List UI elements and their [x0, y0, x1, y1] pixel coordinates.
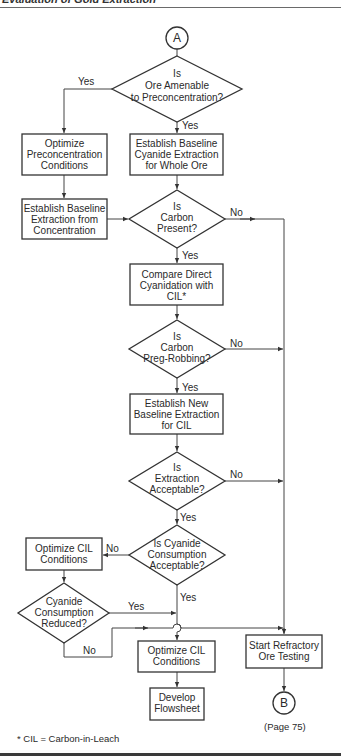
process-optimize-cil-left: Optimize CIL Conditions — [26, 538, 102, 570]
svg-text:Develop: Develop — [159, 692, 196, 703]
svg-text:Compare Direct: Compare Direct — [141, 269, 211, 280]
decision-cyanide-reduced: Cyanide Consumption Reduced? — [18, 583, 109, 643]
decision-carbon-present: Is Carbon Present? — [129, 190, 225, 248]
svg-text:Conditions: Conditions — [41, 160, 88, 171]
svg-text:Preg-Robbing?: Preg-Robbing? — [143, 353, 211, 364]
svg-text:Extraction: Extraction — [155, 473, 199, 484]
svg-text:Conditions: Conditions — [153, 656, 200, 667]
svg-text:Is: Is — [173, 201, 181, 212]
svg-text:Is: Is — [173, 68, 181, 79]
decision-extraction-acceptable: Is Extraction Acceptable? — [129, 452, 225, 510]
label-cyacc-yes: Yes — [180, 592, 196, 603]
svg-text:Acceptable?: Acceptable? — [149, 484, 204, 495]
svg-text:Conditions: Conditions — [40, 554, 87, 565]
edge-d1-yes-left — [64, 89, 112, 133]
svg-text:Concentration: Concentration — [33, 225, 95, 236]
svg-text:A: A — [173, 31, 181, 45]
svg-text:Carbon: Carbon — [161, 342, 194, 353]
label-extraction-yes: Yes — [180, 512, 196, 523]
svg-text:Flowsheet: Flowsheet — [154, 703, 200, 714]
svg-text:Optimize CIL: Optimize CIL — [148, 645, 206, 656]
label-pregrob-no: No — [230, 338, 243, 349]
flowchart: A Is Ore Amenable to Preconcentration? O… — [0, 0, 341, 756]
label-d1-yes-left: Yes — [78, 76, 94, 87]
svg-text:for CIL: for CIL — [161, 420, 191, 431]
process-develop-flowsheet: Develop Flowsheet — [150, 688, 204, 720]
process-optimize-preconcentration: Optimize Preconcentration Conditions — [22, 134, 107, 175]
svg-text:Is Cyanide: Is Cyanide — [153, 538, 201, 549]
label-carbon-no: No — [230, 207, 243, 218]
process-optimize-cil-center: Optimize CIL Conditions — [138, 641, 215, 672]
svg-text:Start Refractory: Start Refractory — [249, 640, 319, 651]
svg-text:for Whole Ore: for Whole Ore — [145, 160, 208, 171]
process-compare-cyanidation: Compare Direct Cyanidation with CIL* — [130, 264, 223, 305]
svg-text:Extraction from: Extraction from — [31, 214, 98, 225]
connector-a: A — [166, 27, 188, 49]
decision-preg-robbing: Is Carbon Preg-Robbing? — [129, 320, 225, 378]
label-carbon-yes: Yes — [182, 250, 198, 261]
svg-text:Cyanidation with: Cyanidation with — [140, 280, 213, 291]
svg-text:Cyanide: Cyanide — [46, 596, 83, 607]
label-d1-yes-down: Yes — [182, 120, 198, 131]
svg-text:CIL*: CIL* — [167, 291, 187, 302]
svg-text:Consumption: Consumption — [35, 607, 94, 618]
svg-text:Is: Is — [173, 462, 181, 473]
page-reference: (Page 75) — [264, 721, 306, 732]
svg-text:Consumption: Consumption — [148, 549, 207, 560]
svg-text:Establish New: Establish New — [145, 398, 209, 409]
process-baseline-whole-ore: Establish Baseline Cyanide Extraction fo… — [130, 134, 223, 175]
label-cyacc-no: No — [106, 543, 119, 554]
label-reduced-yes: Yes — [128, 601, 144, 612]
svg-text:Optimize CIL: Optimize CIL — [35, 543, 93, 554]
edge-trunk-right — [225, 219, 284, 633]
connector-b: B — [273, 692, 295, 714]
process-new-baseline-cil: Establish New Baseline Extraction for CI… — [130, 394, 223, 434]
svg-text:to Preconcentration?: to Preconcentration? — [131, 92, 224, 103]
svg-text:Cyanide Extraction: Cyanide Extraction — [135, 149, 219, 160]
label-reduced-no: No — [83, 645, 96, 656]
svg-text:Ore Testing: Ore Testing — [259, 651, 310, 662]
svg-text:Present?: Present? — [157, 223, 197, 234]
decision-cyanide-acceptable: Is Cyanide Consumption Acceptable? — [129, 525, 225, 585]
svg-text:Acceptable?: Acceptable? — [149, 560, 204, 571]
svg-text:Ore Amenable: Ore Amenable — [145, 80, 209, 91]
footnote: * CIL = Carbon-in-Leach — [17, 733, 119, 744]
svg-text:Carbon: Carbon — [161, 212, 194, 223]
svg-text:Reduced?: Reduced? — [41, 618, 87, 629]
svg-text:Is: Is — [173, 331, 181, 342]
svg-text:Establish Baseline: Establish Baseline — [24, 203, 106, 214]
svg-text:B: B — [280, 696, 288, 710]
svg-text:Baseline Extraction: Baseline Extraction — [134, 409, 220, 420]
svg-text:Establish Baseline: Establish Baseline — [136, 138, 218, 149]
svg-text:Optimize: Optimize — [45, 138, 85, 149]
decision-ore-amenable: Is Ore Amenable to Preconcentration? — [112, 56, 242, 122]
process-baseline-concentration: Establish Baseline Extraction from Conce… — [22, 199, 107, 239]
label-pregrob-yes: Yes — [182, 382, 198, 393]
process-start-refractory: Start Refractory Ore Testing — [246, 635, 322, 668]
label-extraction-no: No — [230, 469, 243, 480]
svg-text:Preconcentration: Preconcentration — [27, 149, 103, 160]
